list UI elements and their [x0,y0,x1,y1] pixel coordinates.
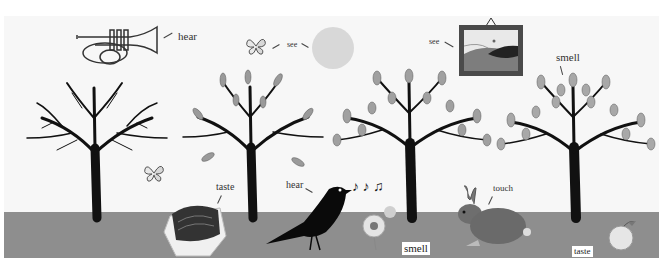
bare-tree [22,78,172,218]
chocolate-icon [162,196,228,258]
label-smell-tree: smell [556,52,580,63]
trumpet-icon [75,25,160,70]
butterfly-icon [245,36,267,56]
label-see-painting: see [429,38,439,46]
senses-scene: hear see see [0,0,659,262]
label-taste-apple: taste [572,246,593,257]
sun-circle [312,27,354,69]
label-hear-trumpet: hear [178,31,197,42]
label-taste-chocolate: taste [216,182,234,192]
butterfly-icon [143,163,165,183]
blackbird-icon [264,184,354,254]
label-see-butterfly: see [287,41,297,49]
rabbit-icon [450,184,530,250]
flower-icon [358,200,398,250]
apple-icon [608,218,638,254]
label-smell-flower: smell [402,242,430,255]
music-notes-icon: ♪ ♪ ♫ [352,180,384,194]
